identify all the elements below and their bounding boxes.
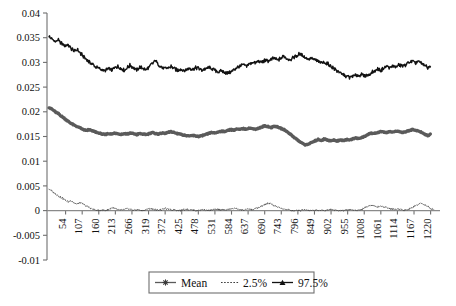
x-tick-label: 372 <box>156 219 167 235</box>
x-tick-label: 107 <box>73 219 84 235</box>
series-2-5-percent <box>49 189 434 211</box>
y-tick-label: -0.005 <box>13 230 40 241</box>
x-tick-label: 1061 <box>372 219 383 240</box>
x-tick-label: 1114 <box>388 218 399 239</box>
y-axis-ticks: 0.040.0350.030.0250.020.0150.010.0050-0.… <box>13 8 47 266</box>
legend-label-2-5-percent: 2.5% <box>243 277 267 289</box>
y-tick-label: -0.01 <box>18 255 40 266</box>
y-tick-label: 0.005 <box>16 181 40 192</box>
y-tick-label: 0 <box>35 205 40 216</box>
y-tick-label: 0.02 <box>22 106 40 117</box>
x-tick-label: 160 <box>90 219 101 235</box>
x-tick-label: 531 <box>206 219 217 235</box>
line-chart: 0.040.0350.030.0250.020.0150.010.0050-0.… <box>0 0 456 306</box>
y-tick-label: 0.015 <box>16 131 40 142</box>
y-tick-label: 0.03 <box>22 57 40 68</box>
x-tick-label: 1167 <box>405 219 416 240</box>
x-tick-label: 266 <box>123 219 134 235</box>
x-tick-label: 1008 <box>355 219 366 240</box>
x-tick-label: 902 <box>322 219 333 235</box>
x-tick-label: 319 <box>140 219 151 235</box>
x-tick-label: 54 <box>57 218 68 229</box>
x-tick-label: 849 <box>305 219 316 235</box>
x-tick-label: 743 <box>272 219 283 235</box>
x-tick-label: 1220 <box>422 219 433 240</box>
series-97-5-percent <box>49 36 430 79</box>
x-tick-label: 955 <box>339 219 350 235</box>
legend-label-97-5-percent: 97.5% <box>298 277 328 289</box>
x-axis-ticks: 5410716021326631937242547853158463769074… <box>57 211 433 240</box>
x-tick-label: 796 <box>289 219 300 235</box>
chart-legend: Mean 2.5% 97.5% <box>149 272 328 293</box>
x-tick-label: 584 <box>223 218 234 235</box>
series-mean <box>49 108 430 145</box>
x-tick-label: 637 <box>239 219 250 235</box>
legend-label-mean: Mean <box>181 277 207 289</box>
x-tick-label: 690 <box>256 219 267 235</box>
y-tick-label: 0.025 <box>16 82 40 93</box>
x-tick-label: 425 <box>173 219 184 235</box>
star-marker-icon <box>162 279 168 285</box>
chart-figure: 0.040.0350.030.0250.020.0150.010.0050-0.… <box>0 0 456 306</box>
y-tick-label: 0.01 <box>22 156 40 167</box>
y-tick-label: 0.04 <box>22 8 41 19</box>
x-tick-label: 213 <box>106 219 117 235</box>
x-tick-label: 478 <box>189 219 200 235</box>
y-tick-label: 0.035 <box>16 32 40 43</box>
